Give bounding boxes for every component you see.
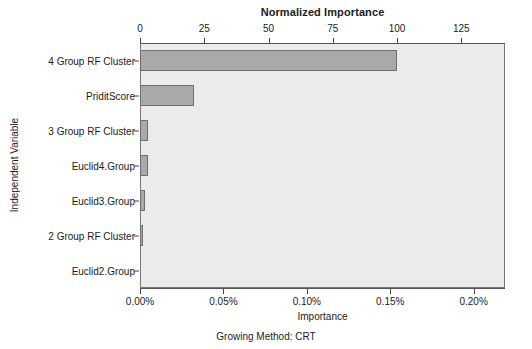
y-axis-tick-label: PriditScore	[86, 90, 135, 101]
bottom-axis-tick-label: 0.00%	[126, 296, 154, 307]
y-axis-tick-mark	[134, 165, 139, 166]
y-axis: 4 Group RF ClusterPriditScore3 Group RF …	[0, 0, 532, 349]
x-axis-title: Importance	[140, 311, 505, 322]
y-axis-title: Independent Variable	[9, 118, 20, 212]
y-axis-tick-mark	[134, 130, 139, 131]
bottom-axis-tick-mark	[474, 289, 475, 294]
importance-bar-chart: Normalized Importance 0255075100125 4 Gr…	[0, 0, 532, 349]
y-axis-tick-label: Euclid3.Group	[72, 195, 135, 206]
y-axis-tick-label: Euclid4.Group	[72, 160, 135, 171]
bottom-axis-tick-mark	[140, 289, 141, 294]
y-axis-tick-mark	[134, 60, 139, 61]
bottom-axis-tick-mark	[223, 289, 224, 294]
bottom-axis-line	[140, 288, 505, 289]
bottom-axis-tick-label: 0.05%	[209, 296, 237, 307]
bottom-axis-tick-label: 0.20%	[459, 296, 487, 307]
y-axis-tick-mark	[134, 270, 139, 271]
bottom-axis-tick-label: 0.10%	[293, 296, 321, 307]
growing-method-note: Growing Method: CRT	[0, 331, 532, 342]
bottom-axis-tick-mark	[307, 289, 308, 294]
y-axis-tick-label: Euclid2.Group	[72, 265, 135, 276]
bottom-axis-tick-mark	[390, 289, 391, 294]
y-axis-tick-mark	[134, 200, 139, 201]
y-axis-tick-label: 4 Group RF Cluster	[48, 55, 135, 66]
y-axis-tick-mark	[134, 95, 139, 96]
y-axis-tick-label: 2 Group RF Cluster	[48, 230, 135, 241]
y-axis-tick-label: 3 Group RF Cluster	[48, 125, 135, 136]
bottom-axis-tick-label: 0.15%	[376, 296, 404, 307]
y-axis-tick-mark	[134, 235, 139, 236]
